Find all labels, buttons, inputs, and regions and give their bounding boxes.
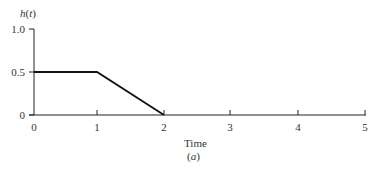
x-tick-label: 3 (227, 121, 233, 133)
x-tick-label: 4 (295, 121, 301, 133)
series-line-h (34, 72, 164, 115)
x-tick-label: 2 (161, 121, 167, 133)
x-tick-label: 0 (31, 121, 37, 133)
x-axis-label: Time (184, 137, 207, 149)
y-tick-label: 0 (20, 109, 26, 121)
y-axis-label: h(t) (20, 7, 36, 20)
figure-caption: (a) (187, 150, 200, 163)
x-tick-label: 5 (362, 121, 368, 133)
y-ticks: 1.0 0.5 0 (11, 23, 34, 121)
x-ticks: 0 1 2 3 4 5 (31, 110, 368, 133)
x-tick-label: 1 (94, 121, 100, 133)
y-tick-label: 0.5 (11, 66, 25, 78)
chart: h(t) 1.0 0.5 0 0 1 2 3 4 5 Time (a) (0, 0, 375, 178)
y-tick-label: 1.0 (11, 23, 25, 35)
